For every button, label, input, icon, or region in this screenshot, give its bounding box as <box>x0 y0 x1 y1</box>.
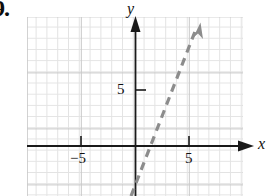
y-tick-label-5: 5 <box>117 82 125 97</box>
x-axis-arrowhead <box>238 141 254 152</box>
graph-figure: 9. y x 5 −5 5 <box>0 0 269 196</box>
dashed-line-arrowhead <box>193 23 203 40</box>
y-axis-label: y <box>127 1 134 17</box>
x-tick-label-neg5: −5 <box>70 151 86 166</box>
y-axis-arrowhead <box>131 16 141 32</box>
x-tick-label-5: 5 <box>185 151 193 166</box>
dashed-line <box>131 29 196 196</box>
x-axis-label: x <box>258 136 265 152</box>
plot-overlay <box>0 0 269 196</box>
